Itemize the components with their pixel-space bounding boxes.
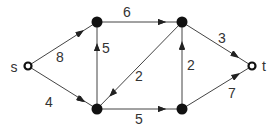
- weight-c-t: 3: [218, 31, 226, 45]
- node-b: [92, 104, 103, 115]
- weight-s-b: 4: [45, 95, 53, 109]
- edge-s-b: [28, 66, 97, 109]
- weight-d-c: 2: [187, 58, 195, 72]
- weight-b-a: 5: [102, 41, 110, 55]
- node-d: [177, 104, 188, 115]
- label-sink-t: t: [262, 59, 266, 73]
- weight-a-c: 6: [123, 5, 131, 19]
- weight-b-d: 5: [135, 112, 143, 126]
- node-c: [177, 17, 188, 28]
- edge-c-b: [97, 22, 182, 109]
- node-a: [92, 17, 103, 28]
- node-t: [249, 63, 256, 70]
- node-s: [25, 63, 32, 70]
- graph-edges: [0, 0, 275, 129]
- flow-network-diagram: s t 8 4 5 6 2 2 5 3 7: [0, 0, 275, 129]
- label-source-s: s: [11, 60, 18, 74]
- weight-d-t: 7: [228, 86, 236, 100]
- weight-s-a: 8: [56, 50, 64, 64]
- weight-c-b: 2: [135, 69, 143, 83]
